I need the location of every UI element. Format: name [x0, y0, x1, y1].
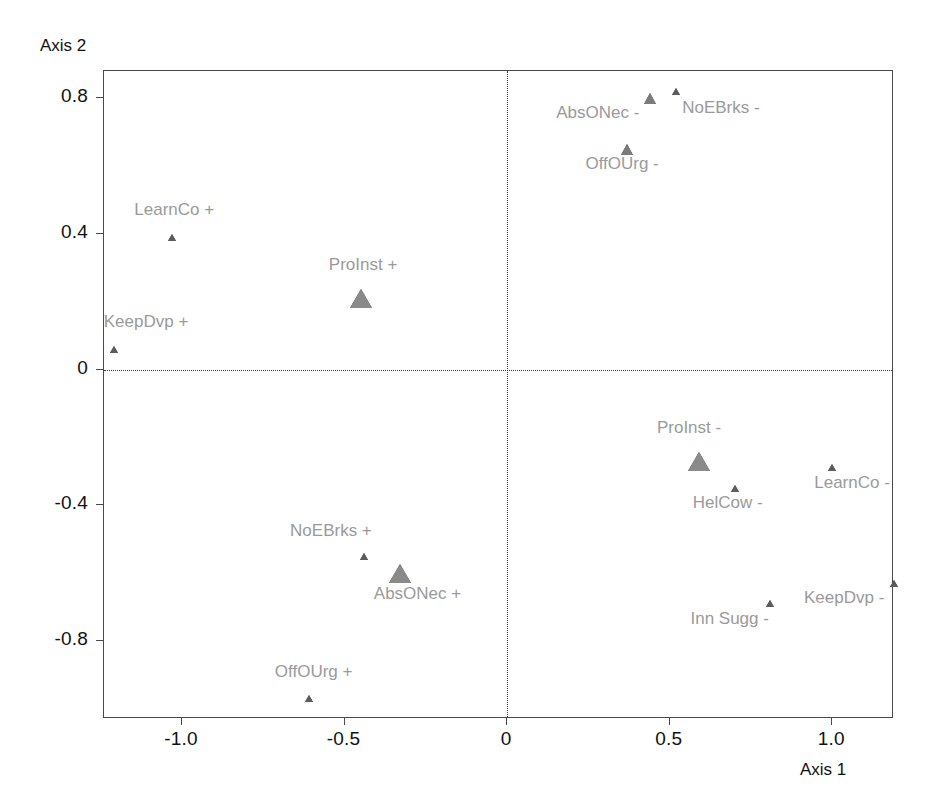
data-point-marker[interactable]: [828, 464, 836, 471]
zero-line-vertical: [507, 71, 508, 717]
data-point-marker[interactable]: [621, 144, 633, 155]
data-point-marker[interactable]: [890, 580, 898, 587]
data-point-marker[interactable]: [766, 600, 774, 607]
data-point-label: OffOUrg +: [275, 662, 353, 682]
x-tick-label: -0.5: [304, 728, 384, 750]
data-point-marker[interactable]: [672, 88, 680, 95]
data-point-marker[interactable]: [305, 695, 313, 702]
data-point-label: LearnCo +: [134, 200, 214, 220]
y-tick-label: 0.4: [18, 221, 88, 243]
y-tick-label: 0.8: [18, 85, 88, 107]
data-point-label: AbsONec -: [556, 103, 639, 123]
y-tick-label: 0: [18, 357, 88, 379]
data-point-label: ProInst +: [329, 255, 398, 275]
data-point-marker[interactable]: [168, 234, 176, 241]
data-point-label: AbsONec +: [374, 584, 461, 604]
zero-line-horizontal: [104, 370, 892, 371]
data-point-marker[interactable]: [360, 553, 368, 560]
x-tick-label: -1.0: [141, 728, 221, 750]
data-point-label: NoEBrks +: [290, 521, 372, 541]
data-point-label: Inn Sugg -: [690, 609, 768, 629]
y-axis-title: Axis 2: [40, 36, 86, 56]
data-point-marker[interactable]: [731, 485, 739, 492]
data-point-label: ProInst -: [657, 418, 721, 438]
x-axis-title: Axis 1: [800, 760, 846, 780]
correspondence-analysis-biplot: Axis 2 Axis 1 0.80.40-0.4-0.8 -1.0-0.500…: [0, 0, 934, 796]
data-point-label: KeepDvp +: [104, 312, 189, 332]
x-tick-label: 0.5: [629, 728, 709, 750]
y-tick-label: -0.4: [18, 492, 88, 514]
y-tick-label: -0.8: [18, 628, 88, 650]
data-point-marker[interactable]: [389, 564, 411, 583]
data-point-label: KeepDvp -: [804, 588, 884, 608]
x-tick-label: 0: [466, 728, 546, 750]
data-point-label: LearnCo -: [814, 473, 890, 493]
plot-area: AbsONec -NoEBrks -OffOUrg -LearnCo +ProI…: [103, 70, 893, 718]
data-point-marker[interactable]: [350, 289, 372, 308]
data-point-marker[interactable]: [688, 452, 710, 471]
data-point-marker[interactable]: [110, 346, 118, 353]
data-point-label: HelCow -: [693, 493, 763, 513]
x-tick-label: 1.0: [791, 728, 871, 750]
data-point-label: NoEBrks -: [682, 98, 759, 118]
data-point-label: OffOUrg -: [585, 154, 658, 174]
data-point-marker[interactable]: [644, 93, 656, 104]
